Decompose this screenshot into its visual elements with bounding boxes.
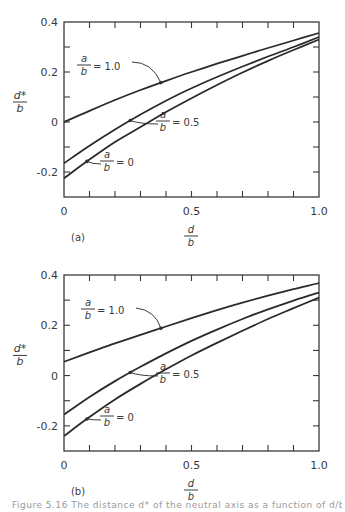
leader-line — [87, 419, 101, 420]
x-tick-label: 1.0 — [310, 205, 328, 218]
y-tick-label: 0.4 — [41, 269, 59, 282]
svg-text:b: b — [17, 102, 24, 115]
svg-text:= 0.5: = 0.5 — [172, 117, 199, 128]
svg-text:= 0: = 0 — [116, 412, 134, 423]
svg-text:= 1.0: = 1.0 — [93, 61, 120, 72]
plot-frame — [64, 275, 319, 451]
leader-line — [130, 121, 158, 125]
leader-line — [136, 308, 161, 328]
svg-text:a: a — [81, 53, 87, 64]
svg-text:d: d — [188, 478, 195, 489]
series-label: ab= 0.5 — [156, 109, 199, 133]
svg-text:= 0.5: = 0.5 — [172, 369, 199, 380]
y-tick-label: 0.2 — [41, 66, 59, 79]
y-tick-label: 0.4 — [41, 16, 59, 29]
chart-panel-a: -0.200.20.400.51.0d*bdb(a)ab= 1.0ab= 0.5… — [13, 16, 328, 248]
series-label: ab= 1.0 — [81, 297, 124, 321]
series-label: ab= 0 — [100, 404, 134, 428]
series-curve: ab= 1.0 — [64, 33, 319, 122]
x-tick-label: 0.5 — [183, 205, 201, 218]
series-label-fraction: ab — [100, 149, 114, 173]
series-label: ab= 0 — [100, 149, 134, 173]
plot-frame — [64, 22, 319, 197]
series-label-fraction: ab — [156, 109, 170, 133]
y-axis-label: d*b — [13, 342, 27, 368]
svg-text:a: a — [85, 297, 91, 308]
svg-text:d*: d* — [14, 342, 27, 355]
leader-line — [132, 62, 161, 83]
y-axis-label: d*b — [13, 89, 27, 115]
svg-text:b: b — [85, 310, 91, 321]
svg-text:d*: d* — [14, 89, 27, 102]
svg-text:b: b — [160, 122, 166, 133]
figure-canvas: -0.200.20.400.51.0d*bdb(a)ab= 1.0ab= 0.5… — [0, 0, 345, 512]
svg-text:a: a — [104, 404, 110, 415]
svg-text:b: b — [104, 162, 110, 173]
y-tick-label: 0.2 — [41, 319, 59, 332]
leader-line — [87, 161, 101, 164]
axis-ticks — [64, 275, 319, 451]
chart-panel-b: -0.200.20.400.51.0d*bdb(b)ab= 1.0ab= 0.5… — [13, 269, 328, 502]
y-tick-label: -0.2 — [37, 420, 58, 433]
series-curve: ab= 1.0 — [64, 283, 319, 362]
x-tick-label: 0.5 — [183, 459, 201, 472]
svg-text:= 1.0: = 1.0 — [97, 305, 124, 316]
series-label: ab= 0.5 — [156, 361, 199, 385]
svg-text:d: d — [188, 224, 195, 235]
svg-text:b: b — [188, 237, 194, 248]
x-tick-label: 0 — [61, 205, 68, 218]
x-axis-label: db — [184, 478, 198, 502]
panel-label: (b) — [71, 486, 85, 497]
x-axis-label: db — [184, 224, 198, 248]
panel-label: (a) — [71, 232, 85, 243]
x-tick-label: 0 — [61, 459, 68, 472]
curve-marker — [85, 160, 89, 164]
series-label: ab= 1.0 — [77, 53, 120, 77]
svg-text:b: b — [104, 417, 110, 428]
y-tick-label: 0 — [51, 116, 58, 129]
series-label-fraction: ab — [81, 297, 95, 321]
axis-ticks — [64, 22, 319, 197]
y-tick-label: -0.2 — [37, 166, 58, 179]
svg-text:b: b — [81, 66, 87, 77]
x-tick-label: 1.0 — [310, 459, 328, 472]
svg-text:= 0: = 0 — [116, 157, 134, 168]
svg-text:b: b — [160, 374, 166, 385]
figure-caption: Figure 5.16 The distance d* of the neutr… — [12, 500, 342, 510]
series-label-fraction: ab — [77, 53, 91, 77]
svg-text:a: a — [104, 149, 110, 160]
y-tick-label: 0 — [51, 370, 58, 383]
svg-text:b: b — [17, 355, 24, 368]
